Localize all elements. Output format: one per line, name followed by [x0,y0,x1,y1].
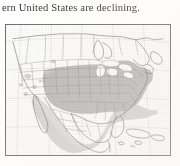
scanned-page-fragment: ern United States are declining. [0,0,180,166]
north-america-range-map [6,25,170,155]
figure-block [5,24,171,156]
body-text-line: ern United States are declining. [2,0,180,16]
map-frame [5,24,171,156]
